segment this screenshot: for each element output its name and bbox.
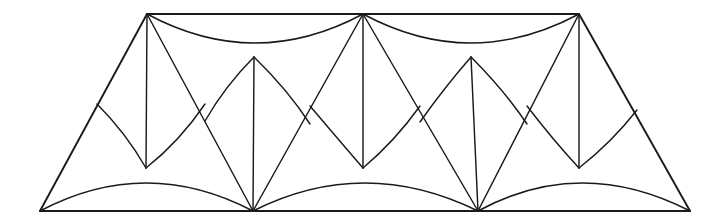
vertical-chord-u1-b1 <box>253 57 254 211</box>
cusp-arc-u2-downleft <box>420 57 471 122</box>
figure-canvas <box>0 0 727 218</box>
cusp-arcs-group <box>97 57 637 168</box>
vertical-chord-t1-l1 <box>146 14 147 168</box>
cusp-arc-l3-upright <box>579 110 637 168</box>
bottom-arc-left <box>40 183 253 211</box>
left-slant-edge <box>40 14 147 211</box>
bottom-arc-center <box>253 183 478 211</box>
cusp-arc-u2-downright <box>471 57 527 124</box>
primary-arcs-group <box>40 14 690 211</box>
diagonal-chord-t3-b2 <box>478 14 579 211</box>
cusp-arc-l2-upright <box>363 106 420 168</box>
cusp-arc-l2-upleft <box>310 106 363 168</box>
diagonal-chord-t2-b1 <box>253 14 363 211</box>
cusp-arc-l1-upright <box>146 104 205 168</box>
diagonal-chord-t2-b2 <box>363 14 478 211</box>
vertical-chord-u2-b2 <box>471 57 478 211</box>
geometric-figure <box>0 0 727 218</box>
cusp-arc-l3-upleft <box>527 106 579 168</box>
cusp-arc-u1-downleft <box>205 57 254 121</box>
top-arc-right <box>363 14 579 43</box>
cusp-arc-l1-upleft <box>97 104 146 168</box>
cusp-arc-u1-downright <box>254 57 310 124</box>
bottom-arc-right <box>478 183 690 211</box>
vertical-chords-group <box>146 14 579 211</box>
trapezoid-outline-group <box>40 14 690 211</box>
diagonal-chord-t1-b1 <box>147 14 253 211</box>
top-arc-left <box>147 14 363 43</box>
